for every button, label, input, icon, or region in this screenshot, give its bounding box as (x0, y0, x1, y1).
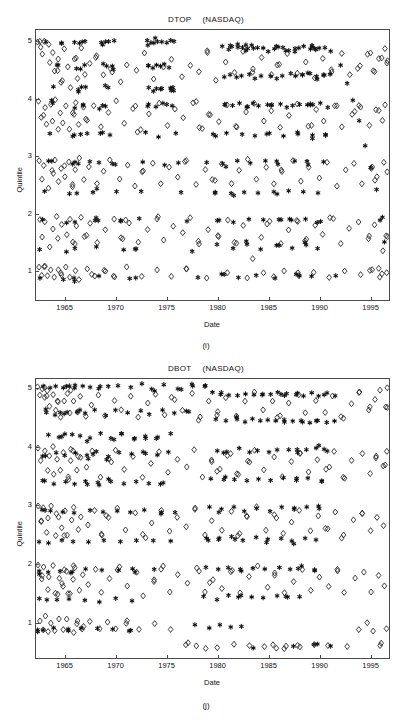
marker-diamond (272, 454, 277, 460)
y-tick-label: 3 (19, 500, 32, 509)
marker-asterisk (266, 418, 270, 422)
marker-diamond (57, 575, 62, 581)
marker-diamond (63, 174, 68, 180)
marker-asterisk (262, 218, 266, 222)
marker-asterisk (137, 216, 141, 220)
marker-diamond (162, 412, 167, 418)
marker-diamond (339, 50, 344, 56)
marker-diamond (40, 234, 45, 240)
marker-diamond (79, 45, 84, 51)
marker-diamond (69, 517, 74, 523)
marker-diamond (79, 214, 84, 220)
marker-diamond (259, 55, 264, 61)
x-tick-label: 1980 (204, 303, 232, 312)
marker-asterisk (289, 71, 293, 75)
marker-diamond (96, 392, 101, 398)
x-tick-mark (371, 297, 372, 300)
marker-diamond (86, 522, 91, 528)
marker-diamond (338, 241, 343, 247)
marker-diamond (58, 110, 63, 116)
marker-diamond (76, 527, 81, 533)
x-tick-mark (218, 297, 219, 300)
marker-diamond (37, 264, 42, 270)
marker-diamond (380, 117, 385, 123)
marker-asterisk (129, 385, 133, 389)
y-tick-mark (36, 41, 39, 42)
marker-diamond (175, 514, 180, 520)
marker-diamond (59, 525, 64, 531)
marker-asterisk (73, 106, 77, 110)
marker-diamond (229, 181, 234, 187)
marker-diamond (101, 168, 106, 174)
marker-diamond (340, 124, 345, 130)
marker-asterisk (269, 478, 273, 482)
marker-diamond (70, 184, 75, 190)
marker-asterisk (73, 279, 77, 283)
marker-diamond (95, 240, 100, 246)
marker-asterisk (305, 448, 309, 452)
marker-asterisk (357, 119, 361, 123)
marker-asterisk (130, 599, 134, 603)
marker-diamond (226, 217, 231, 223)
marker-diamond (175, 572, 180, 578)
marker-diamond (51, 471, 56, 477)
marker-diamond (88, 220, 93, 226)
marker-asterisk (305, 505, 309, 509)
marker-asterisk (45, 598, 49, 602)
marker-asterisk (227, 593, 231, 597)
marker-diamond (45, 467, 50, 473)
marker-asterisk (233, 477, 237, 481)
marker-diamond (376, 572, 381, 578)
marker-asterisk (279, 536, 283, 540)
marker-asterisk (209, 477, 213, 481)
marker-diamond (43, 448, 48, 454)
marker-diamond (254, 176, 259, 182)
marker-asterisk (323, 46, 327, 50)
marker-diamond (209, 518, 214, 524)
marker-diamond (303, 59, 308, 65)
marker-diamond (38, 44, 43, 50)
y-tick-label: 2 (19, 559, 32, 568)
marker-diamond (136, 239, 141, 245)
marker-diamond (185, 580, 190, 586)
marker-diamond (46, 574, 51, 580)
marker-diamond (353, 575, 358, 581)
marker-diamond (291, 579, 296, 585)
axes-frame-dtop (35, 29, 390, 301)
marker-diamond (352, 108, 357, 114)
marker-asterisk (222, 75, 226, 79)
marker-diamond (65, 64, 70, 70)
marker-asterisk (144, 451, 148, 455)
marker-diamond (56, 179, 61, 185)
marker-asterisk (162, 383, 166, 387)
marker-diamond (299, 178, 304, 184)
marker-asterisk (325, 420, 329, 424)
marker-diamond (380, 271, 385, 277)
marker-diamond (119, 407, 124, 413)
marker-diamond (112, 398, 117, 404)
marker-diamond (384, 270, 389, 276)
marker-diamond (194, 643, 199, 649)
marker-diamond (114, 98, 119, 104)
marker-asterisk (54, 451, 58, 455)
marker-diamond (137, 626, 142, 632)
marker-diamond (358, 272, 363, 278)
marker-asterisk (245, 479, 249, 483)
x-tick-mark (371, 655, 372, 658)
marker-asterisk (291, 103, 295, 107)
marker-asterisk (126, 411, 130, 415)
marker-diamond (373, 396, 378, 402)
marker-asterisk (208, 505, 212, 509)
marker-asterisk (314, 538, 318, 542)
marker-asterisk (75, 66, 79, 70)
marker-asterisk (71, 540, 75, 544)
marker-diamond (151, 76, 156, 82)
marker-asterisk (87, 540, 91, 544)
marker-diamond (267, 218, 272, 224)
marker-diamond (297, 507, 302, 513)
marker-asterisk (67, 597, 71, 601)
marker-asterisk (114, 408, 118, 412)
marker-diamond (51, 226, 56, 232)
marker-diamond (80, 572, 85, 578)
marker-asterisk (235, 75, 239, 79)
